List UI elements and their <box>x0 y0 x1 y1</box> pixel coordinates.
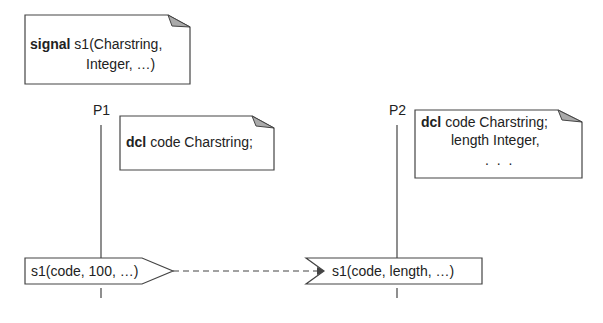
p1-variable: code Charstring; <box>150 134 253 150</box>
signal-keyword: signal <box>30 36 70 52</box>
dcl-keyword: dcl <box>421 114 441 130</box>
p2-variable-length: length Integer, <box>451 132 540 149</box>
dcl-keyword: dcl <box>126 134 146 150</box>
p2-declaration: dcl code Charstring; <box>421 114 548 131</box>
p2-variable-code: code Charstring; <box>445 114 548 130</box>
process-p1-label: P1 <box>93 102 110 119</box>
p1-declaration: dcl code Charstring; <box>126 134 253 151</box>
signal-params-line2: Integer, …) <box>86 56 155 73</box>
process-p2-label: P2 <box>389 102 406 119</box>
input-signal-label: s1(code, length, …) <box>332 263 454 280</box>
p2-ellipsis: . . . <box>485 152 514 169</box>
signal-declaration: signal s1(Charstring, <box>30 36 162 53</box>
output-signal-label: s1(code, 100, …) <box>31 263 138 280</box>
signal-params-line1: s1(Charstring, <box>74 36 162 52</box>
